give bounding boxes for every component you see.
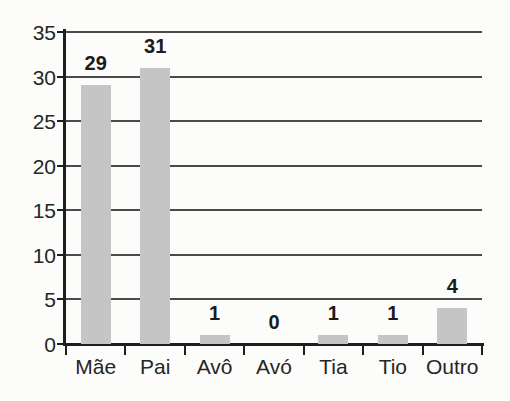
x-axis-tick-2 xyxy=(184,346,186,355)
x-axis-tick-5 xyxy=(362,346,364,355)
category-label-6-outro: Outro xyxy=(415,356,490,377)
gridline-10 xyxy=(66,254,482,256)
bar-chart: 0510152025303529Mãe31Pai1Avô0Avó1Tia1Tio… xyxy=(0,0,510,401)
scanned-page: { "chart_data": { "type": "bar", "title"… xyxy=(0,0,510,401)
gridline-20 xyxy=(66,165,482,167)
x-axis-tick-3 xyxy=(243,346,245,355)
x-axis-tick-6 xyxy=(422,346,424,355)
value-label-0-me: 29 xyxy=(66,53,126,73)
gridline-35 xyxy=(66,31,482,33)
y-tick-label-25: 25 xyxy=(14,111,56,132)
y-tick-label-15: 15 xyxy=(14,200,56,221)
x-axis-tick-4 xyxy=(303,346,305,355)
bar-6-outro xyxy=(437,308,467,344)
value-label-3-av: 0 xyxy=(244,312,304,332)
bar-5-tio xyxy=(378,335,408,344)
x-axis-tick-7 xyxy=(481,346,483,355)
gridline-15 xyxy=(66,209,482,211)
bar-2-av xyxy=(200,335,230,344)
bar-0-me xyxy=(81,85,111,344)
gridline-30 xyxy=(66,76,482,78)
value-label-4-tia: 1 xyxy=(303,303,363,323)
x-axis-tick-0 xyxy=(65,346,67,355)
value-label-1-pai: 31 xyxy=(125,36,185,56)
value-label-6-outro: 4 xyxy=(422,276,482,296)
gridline-25 xyxy=(66,120,482,122)
value-label-2-av: 1 xyxy=(185,303,245,323)
x-axis-tick-1 xyxy=(124,346,126,355)
y-tick-label-35: 35 xyxy=(14,22,56,43)
y-tick-label-5: 5 xyxy=(14,289,56,310)
value-label-5-tio: 1 xyxy=(363,303,423,323)
y-tick-label-0: 0 xyxy=(14,334,56,355)
gridline-5 xyxy=(66,298,482,300)
y-tick-label-10: 10 xyxy=(14,245,56,266)
bar-1-pai xyxy=(140,68,170,344)
bar-4-tia xyxy=(318,335,348,344)
y-axis-line xyxy=(63,29,66,346)
y-tick-label-30: 30 xyxy=(14,67,56,88)
y-tick-label-20: 20 xyxy=(14,156,56,177)
